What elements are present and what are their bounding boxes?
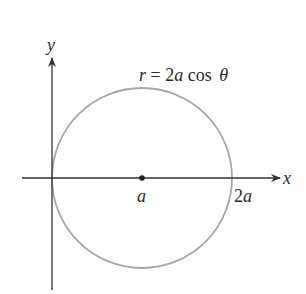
x-axis-label: x <box>282 168 291 188</box>
two-a-label: 2a <box>234 186 252 206</box>
center-label: a <box>137 186 146 206</box>
center-point <box>139 175 145 181</box>
polar-circle-diagram: y x a 2a r = 2a cos θ <box>0 0 306 294</box>
y-axis-label: y <box>45 35 55 55</box>
equation-label: r = 2a cos θ <box>139 65 228 85</box>
